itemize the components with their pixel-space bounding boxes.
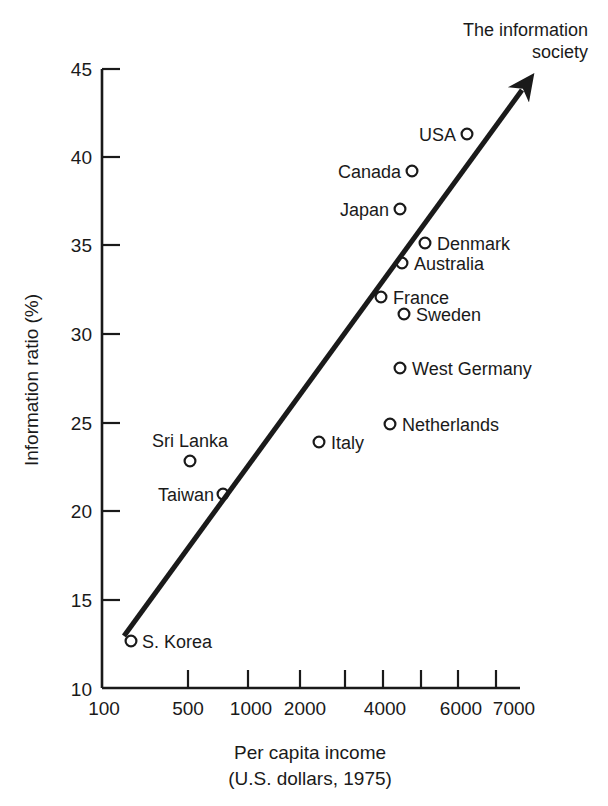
x-tick-label-100: 100	[88, 698, 120, 719]
data-point-denmark[interactable]: Denmark	[420, 234, 511, 254]
point-label: France	[393, 288, 449, 308]
point-label: Italy	[331, 433, 364, 453]
y-tick-label-15: 15	[71, 590, 92, 611]
marker-circle	[420, 238, 431, 249]
marker-circle	[462, 129, 473, 140]
point-label: Australia	[414, 254, 485, 274]
marker-circle	[395, 363, 406, 374]
x-tick-label-500: 500	[172, 698, 204, 719]
point-label: Canada	[338, 162, 402, 182]
annotation-line-1: The information	[463, 20, 588, 40]
scatter-chart: 45 40 35 30 25 20 15 10 100 500 1000 200…	[0, 0, 608, 806]
data-point-usa[interactable]: USA	[419, 125, 472, 145]
data-point-italy[interactable]: Italy	[314, 433, 364, 453]
data-point-australia[interactable]: Australia	[397, 254, 485, 274]
y-tick-label-40: 40	[71, 147, 92, 168]
marker-circle	[376, 292, 387, 303]
data-point-west-germany[interactable]: West Germany	[395, 359, 532, 379]
marker-circle	[399, 309, 410, 320]
data-points: S. Korea Taiwan Sri Lanka Italy Netherla…	[126, 125, 532, 652]
x-tick-label-4000: 4000	[364, 698, 406, 719]
data-point-taiwan[interactable]: Taiwan	[158, 485, 228, 505]
data-point-japan[interactable]: Japan	[340, 200, 405, 220]
y-tick-label-20: 20	[71, 501, 92, 522]
point-label: S. Korea	[142, 632, 213, 652]
marker-circle	[385, 419, 396, 430]
data-point-sweden[interactable]: Sweden	[399, 305, 481, 325]
point-label: Denmark	[437, 234, 511, 254]
information-society-annotation: The information society	[463, 20, 588, 62]
x-tick-label-7000: 7000	[493, 698, 535, 719]
y-tick-label-45: 45	[71, 59, 92, 80]
point-label: West Germany	[412, 359, 532, 379]
data-point-sri-lanka[interactable]: Sri Lanka	[152, 431, 229, 466]
y-tick-label-25: 25	[71, 413, 92, 434]
data-point-s-korea[interactable]: S. Korea	[126, 632, 213, 652]
x-tick-label-2000: 2000	[284, 698, 326, 719]
marker-circle	[395, 204, 406, 215]
data-point-france[interactable]: France	[376, 288, 449, 308]
point-label: USA	[419, 125, 456, 145]
data-point-canada[interactable]: Canada	[338, 162, 417, 182]
point-label: Taiwan	[158, 485, 214, 505]
point-label: Sri Lanka	[152, 431, 229, 451]
x-axis-title: Per capita income	[234, 742, 386, 763]
y-axis-title: Information ratio (%)	[21, 294, 42, 466]
y-tick-label-35: 35	[71, 235, 92, 256]
marker-circle	[126, 636, 137, 647]
y-tick-label-30: 30	[71, 324, 92, 345]
data-point-netherlands[interactable]: Netherlands	[385, 415, 499, 435]
point-label: Netherlands	[402, 415, 499, 435]
marker-circle	[407, 166, 418, 177]
y-axis-ticks	[102, 69, 120, 600]
marker-circle	[314, 437, 325, 448]
x-axis-ticks	[188, 670, 496, 688]
x-tick-label-6000: 6000	[440, 698, 482, 719]
chart-container: 45 40 35 30 25 20 15 10 100 500 1000 200…	[0, 0, 608, 806]
y-axis-tick-labels: 45 40 35 30 25 20 15 10	[71, 59, 92, 700]
x-axis-tick-labels: 100 500 1000 2000 4000 6000 7000	[88, 698, 535, 719]
x-axis-subtitle: (U.S. dollars, 1975)	[228, 768, 392, 789]
point-label: Japan	[340, 200, 389, 220]
point-label: Sweden	[416, 305, 481, 325]
x-tick-label-1000: 1000	[230, 698, 272, 719]
annotation-line-2: society	[532, 42, 588, 62]
marker-circle	[185, 456, 196, 467]
y-tick-label-10: 10	[71, 679, 92, 700]
